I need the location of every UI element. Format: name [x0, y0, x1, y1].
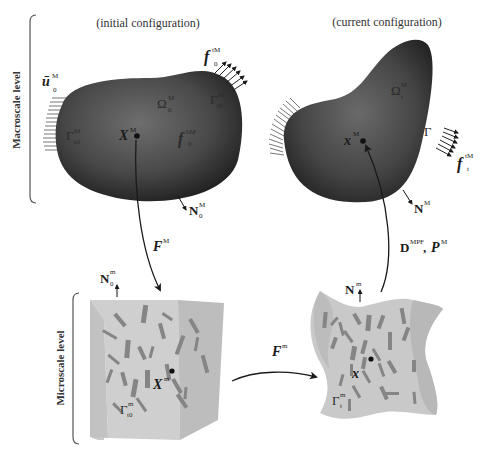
material-point-micro — [169, 368, 174, 373]
svg-text:m: m — [128, 400, 134, 408]
material-point-macro — [134, 133, 140, 139]
svg-text:0: 0 — [214, 60, 218, 68]
svg-text:M: M — [199, 201, 206, 209]
svg-text:Γ: Γ — [332, 393, 340, 408]
svg-text:N: N — [345, 282, 355, 297]
svg-text:N: N — [189, 203, 199, 218]
label-D-P: D MPF , P M — [400, 238, 448, 255]
label-gamma-t: Γ — [424, 124, 432, 139]
svg-text:F: F — [152, 239, 163, 254]
svg-text:M: M — [441, 238, 448, 246]
svg-text:M: M — [130, 126, 137, 134]
normal-arrow-current — [403, 190, 412, 204]
svg-text:x: x — [351, 366, 359, 381]
svg-text:D: D — [400, 240, 409, 255]
svg-text:m: m — [164, 375, 170, 383]
svg-text:0: 0 — [188, 140, 192, 148]
svg-text:X: X — [152, 377, 163, 392]
label-F-M: F M — [152, 237, 170, 254]
svg-text:t: t — [467, 165, 469, 173]
svg-text:M: M — [74, 127, 81, 135]
svg-text:M: M — [218, 91, 225, 99]
svg-text:N: N — [100, 271, 110, 286]
label-f-t0: f tM 0 — [204, 46, 221, 68]
svg-text:N: N — [414, 201, 424, 216]
svg-text:0: 0 — [53, 86, 57, 94]
svg-text:0: 0 — [110, 280, 114, 288]
svg-text:,: , — [423, 240, 426, 255]
microscale-level-label: Microscale level — [54, 330, 66, 405]
svg-text:m: m — [340, 391, 346, 399]
macro-body-initial — [43, 62, 247, 210]
svg-text:X: X — [118, 128, 129, 143]
multiscale-diagram: Macroscale level Microscale level (initi… — [0, 0, 484, 449]
svg-text:M: M — [52, 72, 59, 80]
label-N-M: N M — [414, 199, 431, 216]
svg-text:M: M — [163, 237, 170, 245]
svg-text:M: M — [353, 130, 360, 138]
traction-arrows-current — [436, 128, 458, 156]
label-F-m: F m — [271, 342, 288, 359]
svg-text:Ω: Ω — [391, 83, 401, 98]
svg-text:f: f — [457, 155, 464, 173]
macroscale-bracket — [30, 15, 36, 203]
svg-text:m: m — [356, 280, 362, 288]
svg-text:t: t — [340, 402, 342, 410]
macroscale-level-label: Macroscale level — [10, 71, 22, 149]
initial-configuration-caption: (initial configuration) — [96, 16, 200, 30]
svg-text:0: 0 — [168, 106, 172, 114]
svg-text:m: m — [110, 268, 116, 276]
svg-text:f: f — [204, 48, 211, 66]
label-x-micro: x — [351, 366, 359, 381]
svg-text:tM: tM — [212, 46, 221, 54]
label-u0: ū M 0 — [42, 72, 59, 94]
arrow-micro-deformation — [232, 372, 316, 381]
svg-text:F: F — [271, 344, 282, 359]
svg-text:Γ: Γ — [424, 124, 432, 139]
svg-text:M: M — [401, 81, 408, 89]
label-f-t: f tM t — [457, 152, 474, 173]
svg-text:ū: ū — [42, 74, 50, 89]
spatial-point-macro — [360, 138, 366, 144]
micro-shape-current — [311, 290, 443, 419]
svg-text:Ω: Ω — [157, 96, 167, 111]
svg-text:MPF: MPF — [410, 238, 424, 246]
spatial-point-micro — [368, 356, 373, 361]
label-N0-m: N m 0 — [100, 268, 116, 288]
svg-text:tM: tM — [465, 152, 474, 160]
macro-body-current — [269, 40, 458, 204]
svg-text:m: m — [282, 342, 288, 350]
svg-text:M: M — [168, 94, 175, 102]
label-N0-M: N M 0 — [189, 201, 206, 220]
svg-text:bM: bM — [186, 128, 197, 136]
svg-text:M: M — [424, 199, 431, 207]
svg-text:0: 0 — [199, 212, 203, 220]
svg-text:t: t — [401, 93, 403, 101]
micro-cube-initial — [90, 285, 225, 440]
svg-text:P: P — [431, 240, 440, 255]
current-configuration-caption: (current configuration) — [332, 15, 442, 29]
svg-text:x: x — [343, 133, 351, 148]
label-N-m: N m — [345, 280, 362, 297]
svg-text:t0: t0 — [217, 102, 223, 110]
svg-text:u0: u0 — [73, 138, 81, 146]
svg-text:t0: t0 — [127, 411, 133, 419]
microscale-bracket — [73, 293, 79, 444]
